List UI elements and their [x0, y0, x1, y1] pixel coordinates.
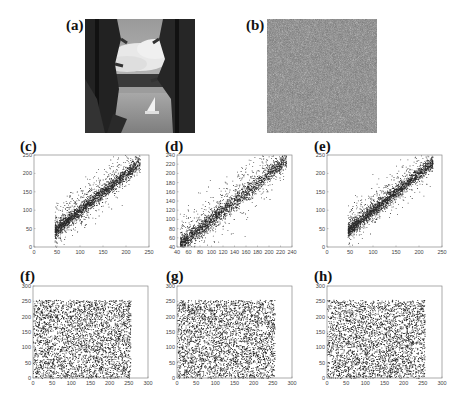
y-tick-label: 100 [166, 344, 175, 350]
scatter-plot-f: 050100150200250300050100150200250300 [33, 286, 148, 382]
scatter-points [177, 300, 276, 379]
y-tick-label: 60 [169, 235, 175, 241]
x-tick-label: 50 [347, 249, 353, 255]
panel-label-b: (b) [246, 18, 264, 33]
x-tick-label: 200 [249, 380, 258, 386]
y-tick-label: 150 [166, 329, 175, 335]
y-tick-label: 250 [22, 298, 31, 304]
y-tick-label: 100 [316, 344, 325, 350]
x-tick-label: 300 [143, 380, 152, 386]
scatter-canvas: 050100150200250300050100150200250300 [327, 286, 442, 378]
x-tick-label: 50 [54, 249, 60, 255]
y-tick-label: 0 [322, 244, 325, 250]
original-image [85, 19, 195, 133]
x-tick-label: 140 [230, 249, 239, 255]
scatter-canvas: 050100150200250300050100150200250300 [177, 286, 292, 378]
scatter-plot-h: 050100150200250300050100150200250300 [327, 286, 442, 382]
scatter-plot-c: 050100150200250050100150200250 [34, 155, 149, 251]
y-tick-label: 300 [166, 283, 175, 289]
y-tick-label: 150 [23, 189, 32, 195]
y-tick-label: 200 [22, 314, 31, 320]
scatter-canvas: 050100150200250300050100150200250300 [33, 286, 148, 378]
x-tick-label: 240 [287, 249, 296, 255]
x-tick-label: 50 [49, 380, 55, 386]
scatter-canvas: 050100150200250050100150200250 [34, 155, 149, 247]
x-tick-label: 200 [105, 380, 114, 386]
panel-label-a: (a) [66, 18, 84, 33]
x-tick-label: 200 [264, 249, 273, 255]
y-tick-label: 50 [319, 226, 325, 232]
y-tick-label: 250 [316, 152, 325, 158]
y-tick-label: 50 [25, 360, 31, 366]
x-tick-label: 220 [276, 249, 285, 255]
y-tick-label: 80 [169, 226, 175, 232]
y-tick-label: 200 [316, 170, 325, 176]
scatter-canvas: 4060801001201401601802002202404060801001… [177, 155, 292, 247]
y-tick-label: 180 [166, 180, 175, 186]
x-tick-label: 250 [437, 249, 446, 255]
y-tick-label: 140 [166, 198, 175, 204]
y-tick-label: 100 [316, 207, 325, 213]
x-tick-label: 0 [175, 380, 178, 386]
x-tick-label: 60 [185, 249, 191, 255]
y-tick-label: 40 [169, 244, 175, 250]
x-tick-label: 0 [325, 249, 328, 255]
y-tick-label: 240 [166, 152, 175, 158]
x-tick-label: 200 [414, 249, 423, 255]
x-tick-label: 200 [121, 249, 130, 255]
lake-scene-image [85, 19, 195, 133]
x-tick-label: 0 [325, 380, 328, 386]
y-tick-label: 300 [22, 283, 31, 289]
x-tick-label: 300 [437, 380, 446, 386]
scatter-points [55, 155, 141, 247]
y-tick-label: 200 [166, 314, 175, 320]
y-tick-label: 200 [316, 314, 325, 320]
x-tick-label: 120 [218, 249, 227, 255]
scatter-plot-g: 050100150200250300050100150200250300 [177, 286, 292, 382]
noise-image [267, 19, 377, 133]
scatter-canvas: 050100150200250050100150200250 [327, 155, 442, 247]
scatter-plot-d: 4060801001201401601802002202404060801001… [177, 155, 292, 251]
x-tick-label: 100 [361, 380, 370, 386]
y-tick-label: 220 [166, 161, 175, 167]
x-tick-label: 250 [124, 380, 133, 386]
panel-label-h: (h) [314, 269, 332, 284]
panel-label-f: (f) [20, 269, 35, 284]
x-tick-label: 50 [193, 380, 199, 386]
x-tick-label: 250 [268, 380, 277, 386]
x-tick-label: 150 [391, 249, 400, 255]
x-tick-label: 250 [144, 249, 153, 255]
x-tick-label: 50 [343, 380, 349, 386]
encrypted-image [267, 19, 377, 133]
y-tick-label: 160 [166, 189, 175, 195]
x-tick-label: 300 [287, 380, 296, 386]
panel-label-g: (g) [166, 269, 184, 284]
y-tick-label: 200 [166, 170, 175, 176]
x-tick-label: 0 [32, 249, 35, 255]
y-tick-label: 250 [166, 298, 175, 304]
y-tick-label: 0 [172, 375, 175, 381]
x-tick-label: 100 [207, 249, 216, 255]
x-tick-label: 100 [75, 249, 84, 255]
x-tick-label: 100 [211, 380, 220, 386]
y-tick-label: 250 [23, 152, 32, 158]
x-tick-label: 150 [230, 380, 239, 386]
y-tick-label: 100 [166, 216, 175, 222]
y-tick-label: 150 [316, 189, 325, 195]
y-tick-label: 0 [29, 244, 32, 250]
y-tick-label: 100 [22, 344, 31, 350]
y-tick-label: 120 [166, 207, 175, 213]
y-tick-label: 150 [316, 329, 325, 335]
y-tick-label: 50 [319, 360, 325, 366]
y-tick-label: 0 [28, 375, 31, 381]
x-tick-label: 200 [399, 380, 408, 386]
x-tick-label: 150 [380, 380, 389, 386]
y-tick-label: 100 [23, 207, 32, 213]
scatter-points [33, 300, 132, 379]
x-tick-label: 100 [67, 380, 76, 386]
y-tick-label: 200 [23, 170, 32, 176]
x-tick-label: 150 [86, 380, 95, 386]
scatter-points [348, 156, 434, 246]
y-tick-label: 150 [22, 329, 31, 335]
y-tick-label: 250 [316, 298, 325, 304]
